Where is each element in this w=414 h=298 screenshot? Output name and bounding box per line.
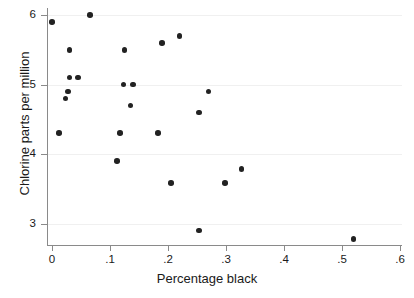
x-tick-mark	[168, 246, 169, 251]
gridline-y	[47, 15, 402, 16]
data-point	[130, 82, 136, 88]
gridline-y	[47, 85, 402, 86]
data-point	[87, 12, 93, 18]
data-point	[67, 47, 73, 53]
x-tick-label: 0	[37, 253, 67, 265]
data-point	[49, 19, 55, 25]
x-tick-mark	[284, 246, 285, 251]
gridline-y	[47, 224, 402, 225]
x-tick-label: .3	[211, 253, 241, 265]
y-tick-label: 3	[4, 218, 36, 229]
x-tick-label: .2	[153, 253, 183, 265]
x-tick-label: .4	[269, 253, 299, 265]
x-axis-line	[47, 245, 402, 246]
data-point	[63, 96, 69, 102]
x-tick-mark	[110, 246, 111, 251]
data-point	[206, 89, 212, 95]
x-tick-mark	[400, 246, 401, 251]
x-tick-label: .1	[95, 253, 125, 265]
scatter-plot-figure: Chlorine parts per million Percentage bl…	[0, 0, 414, 298]
data-point	[222, 180, 228, 186]
y-tick-mark	[41, 154, 47, 155]
data-point	[117, 130, 123, 136]
gridline-y	[47, 154, 402, 155]
data-point	[155, 130, 161, 136]
data-point	[196, 110, 202, 116]
x-tick-mark	[52, 246, 53, 251]
y-tick-label: 4	[4, 148, 36, 159]
y-tick-label: 5	[4, 79, 36, 90]
y-tick-mark	[41, 85, 47, 86]
data-point	[168, 180, 174, 186]
data-point	[351, 236, 357, 242]
plot-area	[47, 8, 402, 245]
y-axis-title: Chlorine parts per million	[17, 4, 32, 244]
data-point	[75, 75, 81, 81]
data-point	[56, 130, 62, 136]
x-tick-mark	[342, 246, 343, 251]
data-point	[239, 166, 245, 172]
x-tick-label: .5	[327, 253, 357, 265]
data-point	[177, 33, 183, 39]
data-point	[65, 89, 71, 95]
data-point	[121, 82, 127, 88]
data-point	[67, 75, 73, 81]
y-tick-mark	[41, 15, 47, 16]
y-tick-mark	[41, 224, 47, 225]
data-point	[122, 47, 128, 53]
y-axis-line	[47, 8, 48, 245]
data-point	[196, 228, 202, 234]
data-point	[114, 158, 120, 164]
y-tick-label: 6	[4, 9, 36, 20]
x-axis-title: Percentage black	[0, 271, 414, 286]
data-point	[159, 40, 165, 46]
x-tick-label: .6	[385, 253, 414, 265]
x-tick-mark	[226, 246, 227, 251]
data-point	[128, 103, 134, 109]
